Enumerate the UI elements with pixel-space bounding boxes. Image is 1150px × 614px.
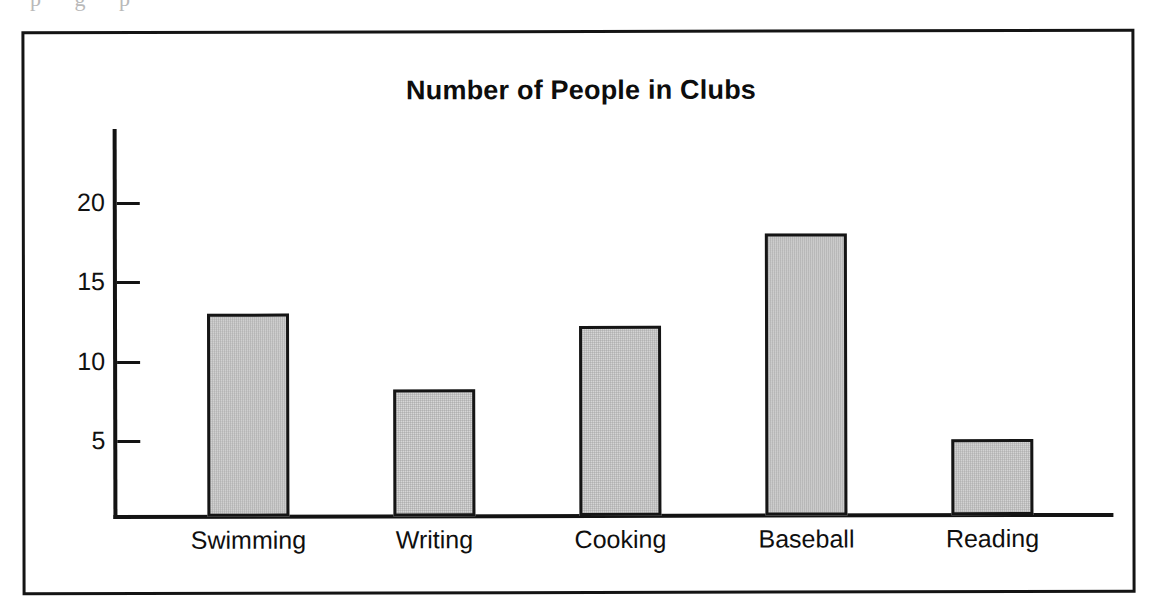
y-tick-5 (117, 440, 140, 443)
y-tick-label-20: 20 (45, 190, 105, 215)
category-label-swimming: Swimming (148, 525, 348, 554)
scan-text-remnant: p g p (0, 0, 1150, 22)
y-tick-20 (117, 202, 140, 205)
y-tick-15 (117, 281, 140, 284)
category-label-writing: Writing (334, 525, 534, 554)
scan-text-remnant-glyphs: p g p (30, 0, 144, 11)
bar-writing (393, 389, 475, 516)
bar-baseball (765, 233, 848, 516)
y-axis-line (113, 129, 118, 519)
y-tick-label-5: 5 (45, 428, 105, 453)
plot-area: 20 15 10 5 Swimming Writing Cooking Base… (24, 32, 1138, 598)
figure-frame: Number of People in Clubs 20 15 10 5 Swi… (21, 29, 1135, 595)
y-tick-label-15: 15 (45, 269, 105, 294)
category-label-reading: Reading (892, 524, 1092, 553)
y-tick-label-10: 10 (45, 349, 105, 374)
bar-swimming (207, 313, 289, 516)
category-label-baseball: Baseball (706, 524, 906, 553)
bar-cooking (579, 325, 661, 516)
category-label-cooking: Cooking (520, 525, 720, 554)
bar-reading (951, 439, 1033, 515)
y-tick-10 (117, 361, 140, 364)
